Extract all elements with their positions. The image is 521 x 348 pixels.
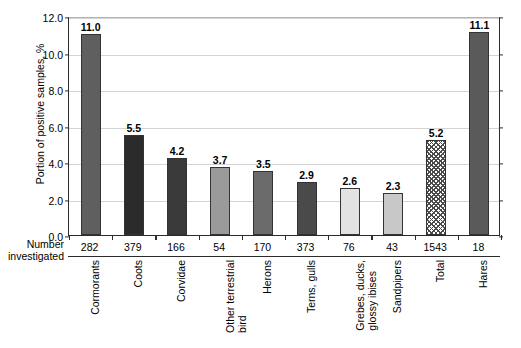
number-investigated-value: 43: [386, 241, 398, 253]
bar-value-label: 11.0: [81, 21, 101, 33]
bar[interactable]: 5.5: [124, 135, 144, 235]
y-axis-tick-mark-right: [499, 200, 503, 201]
category-label: Sandpipers: [392, 260, 404, 313]
bar-value-label: 2.3: [386, 180, 401, 192]
gridline: [69, 18, 499, 19]
bar[interactable]: 2.3: [383, 193, 403, 235]
bar[interactable]: 11.0: [81, 34, 101, 235]
y-axis-tick-mark: [65, 200, 69, 201]
y-axis-tick-mark: [65, 54, 69, 55]
x-axis-tick-mark: [69, 235, 70, 240]
bar-value-label: 3.7: [213, 154, 228, 166]
bar[interactable]: 5.2: [426, 140, 446, 235]
y-axis-tick-mark: [65, 17, 69, 18]
number-investigated-value: 1543: [424, 241, 447, 253]
bar[interactable]: 3.5: [253, 171, 273, 235]
y-axis-tick-mark: [65, 163, 69, 164]
number-investigated-value: 373: [297, 241, 315, 253]
y-axis-tick-label: 4.0: [48, 158, 63, 170]
x-axis-tick-mark: [458, 235, 459, 240]
x-axis-tick-mark: [371, 235, 372, 240]
y-axis-tick-mark-right: [499, 54, 503, 55]
category-label: Cormorants: [90, 260, 102, 315]
bar[interactable]: 2.6: [340, 188, 360, 235]
bar-value-label: 4.2: [170, 145, 185, 157]
gridline: [69, 91, 499, 92]
x-axis-tick-mark: [242, 235, 243, 240]
number-row-divider: [68, 256, 500, 257]
category-label: Corvidae: [176, 260, 188, 302]
category-label: Grebes, ducks, glossy ibises: [355, 260, 378, 331]
bar-chart: Portion of positive samples, % 0.02.04.0…: [0, 0, 521, 348]
x-axis-tick-mark: [155, 235, 156, 240]
number-investigated-value: 54: [213, 241, 225, 253]
bar-value-label: 5.5: [126, 122, 141, 134]
plot-area: 0.02.04.06.08.010.012.011.05.54.23.73.52…: [68, 17, 500, 236]
x-axis-tick-mark: [328, 235, 329, 240]
x-axis-tick-mark: [415, 235, 416, 240]
bar-value-label: 2.9: [299, 169, 314, 181]
y-axis-tick-label: 8.0: [48, 85, 63, 97]
bar[interactable]: 11.1: [469, 32, 489, 235]
category-label: Terns, gulls: [306, 260, 318, 313]
y-axis-tick-mark-right: [499, 90, 503, 91]
number-investigated-row-label: Number investigated: [0, 239, 64, 262]
x-axis-tick-mark: [285, 235, 286, 240]
x-axis-tick-mark: [501, 235, 502, 240]
category-label: Other terrestrial bird: [225, 260, 248, 333]
y-axis-tick-label: 6.0: [48, 122, 63, 134]
bar-value-label: 5.2: [429, 127, 444, 139]
category-label: Coots: [133, 260, 145, 287]
bar-value-label: 2.6: [342, 175, 357, 187]
y-axis-tick-label: 12.0: [43, 12, 63, 24]
gridline: [69, 55, 499, 56]
bar-value-label: 3.5: [256, 158, 271, 170]
bar[interactable]: 3.7: [210, 167, 230, 235]
number-investigated-value: 170: [254, 241, 272, 253]
y-axis-tick-mark-right: [499, 163, 503, 164]
number-investigated-value: 18: [473, 241, 485, 253]
y-axis-tick-mark: [65, 127, 69, 128]
x-axis-tick-mark: [112, 235, 113, 240]
y-axis-tick-mark-right: [499, 17, 503, 18]
bar[interactable]: 2.9: [297, 182, 317, 235]
category-label: Herons: [262, 260, 274, 294]
number-investigated-value: 166: [167, 241, 185, 253]
bar-value-label: 11.1: [469, 19, 489, 31]
number-investigated-label-line1: Number: [0, 239, 64, 251]
y-axis-tick-label: 10.0: [43, 49, 63, 61]
category-label: Total: [435, 260, 447, 282]
y-axis-tick-mark: [65, 90, 69, 91]
category-label: Hares: [478, 260, 490, 288]
number-investigated-value: 379: [124, 241, 142, 253]
x-axis-tick-mark: [199, 235, 200, 240]
y-axis-tick-label: 2.0: [48, 195, 63, 207]
y-axis-title: Portion of positive samples, %: [34, 4, 46, 224]
number-investigated-value: 282: [81, 241, 99, 253]
y-axis-tick-mark-right: [499, 127, 503, 128]
bar[interactable]: 4.2: [167, 158, 187, 235]
number-investigated-label-line2: investigated: [0, 251, 64, 263]
number-investigated-value: 76: [343, 241, 355, 253]
